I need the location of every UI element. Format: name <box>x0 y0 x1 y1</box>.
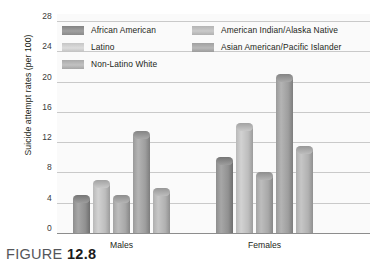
gridline-0 <box>57 233 370 234</box>
figure-caption-label: FIGURE <box>6 246 63 262</box>
bar-females-1 <box>236 123 253 233</box>
legend-label: Non-Latino White <box>91 59 157 69</box>
bar-males-1 <box>93 180 110 233</box>
legend-item-0: African American <box>62 25 156 35</box>
bar-cap <box>93 180 110 188</box>
bar-females-0 <box>216 157 233 233</box>
bar-females-2 <box>256 172 273 233</box>
bar-females-3 <box>276 74 293 233</box>
chart-panel: 2824201612840 Suicide attempt rates (per… <box>0 0 379 236</box>
bar-cap <box>256 172 273 180</box>
bar-cap <box>153 188 170 196</box>
bar-males-2 <box>113 195 130 233</box>
bar-body <box>93 184 110 233</box>
bar-cap <box>236 123 253 131</box>
legend-swatch-icon <box>62 26 84 35</box>
legend-label: American Indian/Alaska Native <box>221 25 338 35</box>
legend-swatch-icon <box>192 43 214 52</box>
gridline-12 <box>57 142 370 143</box>
bar-cap <box>73 195 90 203</box>
legend-item-2: Non-Latino White <box>62 59 157 69</box>
figure-caption: FIGURE 12.8 <box>6 246 96 262</box>
bar-body <box>296 150 313 233</box>
bar-body <box>113 199 130 233</box>
bar-females-4 <box>296 146 313 233</box>
y-tick-label-0: 0 <box>26 223 52 233</box>
gridline-16 <box>57 112 370 113</box>
bar-body <box>256 176 273 233</box>
bar-cap <box>133 131 150 139</box>
legend-item-3: American Indian/Alaska Native <box>192 25 338 35</box>
group-label-females: Females <box>225 240 305 250</box>
bar-males-4 <box>153 188 170 233</box>
legend-swatch-icon <box>62 60 84 69</box>
bar-body <box>236 127 253 233</box>
legend-item-1: Latino <box>62 42 114 52</box>
legend-label: African American <box>91 25 156 35</box>
bar-body <box>133 135 150 233</box>
legend-swatch-icon <box>62 43 84 52</box>
y-tick-label-4: 4 <box>26 193 52 203</box>
bar-body <box>276 78 293 233</box>
bar-males-0 <box>73 195 90 233</box>
bar-body <box>216 161 233 233</box>
figure-caption-number: 12.8 <box>67 246 96 262</box>
legend-label: Asian American/Pacific Islander <box>221 42 341 52</box>
gridline-20 <box>57 82 370 83</box>
bar-cap <box>296 146 313 154</box>
legend-swatch-icon <box>192 26 214 35</box>
bar-cap <box>276 74 293 82</box>
bar-males-3 <box>133 131 150 233</box>
bar-body <box>153 192 170 233</box>
gridline-8 <box>57 172 370 173</box>
legend-item-4: Asian American/Pacific Islander <box>192 42 341 52</box>
legend-label: Latino <box>91 42 114 52</box>
y-axis-label: Suicide attempt rates (per 100) <box>23 5 33 185</box>
gridline-28 <box>57 21 370 22</box>
bar-cap <box>216 157 233 165</box>
bar-cap <box>113 195 130 203</box>
bar-body <box>73 199 90 233</box>
figure-container: 2824201612840 Suicide attempt rates (per… <box>0 0 379 273</box>
